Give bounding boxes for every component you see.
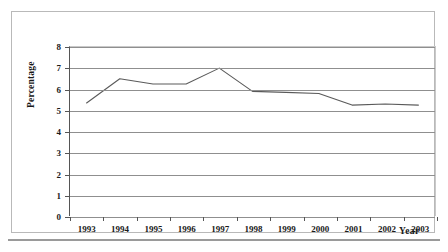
y-tick-label-8: 8 <box>57 43 62 52</box>
x-tick-mark <box>337 217 338 221</box>
x-tick-label-1993: 1993 <box>78 225 96 234</box>
y-tick-mark <box>65 90 70 91</box>
x-tick-mark <box>437 217 438 221</box>
x-tick-label-2003: 2003 <box>411 225 429 234</box>
x-tick-label-1999: 1999 <box>278 225 296 234</box>
y-tick-mark <box>65 132 70 133</box>
gridline-y-8 <box>70 47 435 48</box>
series-line <box>87 68 419 105</box>
x-tick-label-2001: 2001 <box>345 225 363 234</box>
y-tick-label-3: 3 <box>57 149 62 158</box>
figure-frame: Percentage Year 012345678199319941995199… <box>11 11 435 233</box>
y-tick-label-0: 0 <box>57 213 62 222</box>
x-tick-label-1994: 1994 <box>111 225 129 234</box>
x-tick-mark <box>103 217 104 221</box>
x-tick-label-1995: 1995 <box>144 225 162 234</box>
y-tick-mark <box>65 47 70 48</box>
plot-area: 0123456781993199419951996199719981999200… <box>69 46 436 216</box>
y-tick-label-6: 6 <box>57 85 62 94</box>
x-tick-mark <box>304 217 305 221</box>
y-tick-label-2: 2 <box>57 170 62 179</box>
x-tick-label-1997: 1997 <box>211 225 229 234</box>
y-tick-label-4: 4 <box>57 128 62 137</box>
x-tick-mark <box>404 217 405 221</box>
x-tick-label-1996: 1996 <box>178 225 196 234</box>
gridline-y-5 <box>70 111 435 112</box>
y-tick-mark <box>65 68 70 69</box>
y-tick-label-5: 5 <box>57 106 62 115</box>
y-axis-title: Percentage <box>26 61 36 108</box>
x-tick-mark <box>137 217 138 221</box>
x-tick-label-2000: 2000 <box>311 225 329 234</box>
x-tick-mark <box>270 217 271 221</box>
gridline-y-3 <box>70 153 435 154</box>
y-tick-mark <box>65 196 70 197</box>
gridline-y-0 <box>70 217 435 218</box>
x-tick-label-2002: 2002 <box>378 225 396 234</box>
x-tick-mark <box>203 217 204 221</box>
gridline-y-4 <box>70 132 435 133</box>
bottom-divider <box>8 239 440 241</box>
chart-page: Percentage Year 012345678199319941995199… <box>0 0 448 252</box>
y-tick-mark <box>65 175 70 176</box>
y-tick-mark <box>65 153 70 154</box>
x-tick-mark <box>170 217 171 221</box>
x-tick-mark <box>70 217 71 221</box>
gridline-y-2 <box>70 175 435 176</box>
x-tick-mark <box>370 217 371 221</box>
y-tick-label-1: 1 <box>57 191 62 200</box>
gridline-y-6 <box>70 90 435 91</box>
x-tick-mark <box>237 217 238 221</box>
gridline-y-7 <box>70 68 435 69</box>
x-tick-label-1998: 1998 <box>245 225 263 234</box>
y-tick-label-7: 7 <box>57 64 62 73</box>
y-tick-mark <box>65 111 70 112</box>
gridline-y-1 <box>70 196 435 197</box>
